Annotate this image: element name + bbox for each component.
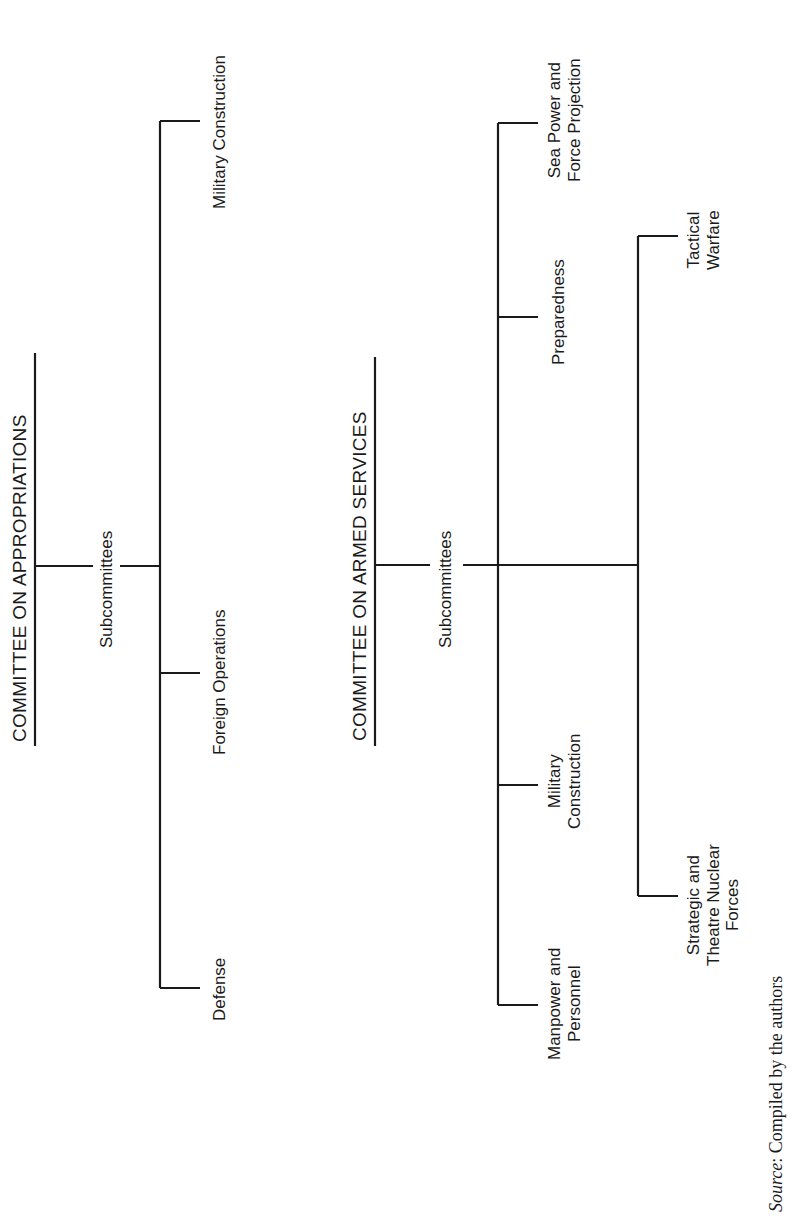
strategic-line3: Forces: [723, 844, 743, 966]
subcommittee-military-construction-as: Military Construction: [545, 734, 584, 829]
military-construction-line2: Construction: [565, 734, 585, 829]
military-construction-line1: Military: [545, 734, 565, 829]
sea-power-line2: Force Projection: [565, 58, 585, 182]
subcommittee-foreign-operations: Foreign Operations: [210, 609, 230, 755]
subcommittee-preparedness: Preparedness: [549, 259, 569, 365]
subcommittee-sea-power: Sea Power and Force Projection: [545, 58, 584, 182]
manpower-line1: Manpower and: [545, 948, 565, 1060]
subcommittee-manpower: Manpower and Personnel: [545, 948, 584, 1060]
subcommittee-military-construction: Military Construction: [210, 55, 230, 209]
tactical-line2: Warfare: [704, 210, 724, 270]
subcommittee-defense: Defense: [210, 958, 230, 1021]
org-chart-lines: [0, 0, 796, 1218]
strategic-line2: Theatre Nuclear: [704, 844, 724, 966]
manpower-line2: Personnel: [565, 948, 585, 1060]
appropriations-title: COMMITTEE ON APPROPRIATIONS: [9, 414, 31, 742]
source-label: Source: [766, 1163, 786, 1212]
tactical-line1: Tactical: [684, 210, 704, 270]
appropriations-subcommittees-label: Subcommittees: [97, 531, 117, 648]
subcommittee-strategic-nuclear: Strategic and Theatre Nuclear Forces: [684, 844, 743, 966]
source-note: Source: Compiled by the authors: [766, 976, 787, 1212]
armed-services-subcommittees-label: Subcommittees: [436, 531, 456, 648]
subcommittee-tactical-warfare: Tactical Warfare: [684, 210, 723, 270]
strategic-line1: Strategic and: [684, 844, 704, 966]
armed-services-title: COMMITTEE ON ARMED SERVICES: [349, 411, 371, 741]
source-text: : Compiled by the authors: [766, 976, 786, 1163]
sea-power-line1: Sea Power and: [545, 58, 565, 182]
